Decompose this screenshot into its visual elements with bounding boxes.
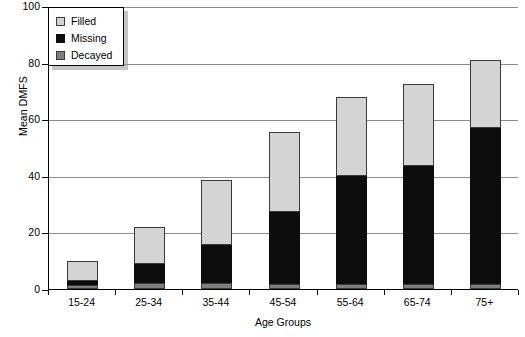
x-tick-label: 25-34	[115, 296, 182, 308]
bar-segment-missing	[67, 281, 98, 285]
gridline	[49, 120, 518, 121]
x-tick	[182, 290, 183, 295]
bar-segment-filled	[336, 97, 367, 176]
bar-segment-filled	[201, 180, 232, 245]
bar-segment-filled	[67, 261, 98, 281]
x-tick-label: 35-44	[182, 296, 249, 308]
y-tick-label: 0	[6, 283, 40, 295]
x-tick-label: 45-54	[249, 296, 316, 308]
stacked-bar-chart: Mean DMFS 020406080100 15-2425-3435-4445…	[0, 0, 525, 337]
bar-65-74	[403, 84, 434, 289]
legend-item-label: Missing	[71, 33, 107, 44]
bar-25-34	[134, 227, 165, 289]
missing-swatch-icon	[56, 34, 65, 43]
bar-segment-decayed	[403, 284, 434, 289]
bar-segment-decayed	[134, 283, 165, 289]
bar-segment-missing	[470, 128, 501, 284]
x-tick-label: 15-24	[48, 296, 115, 308]
decayed-swatch-icon	[56, 51, 65, 60]
bar-segment-filled	[134, 227, 165, 264]
x-tick-label: 55-64	[317, 296, 384, 308]
x-tick	[115, 290, 116, 295]
legend-item-label: Filled	[71, 16, 96, 27]
y-tick-label: 80	[6, 57, 40, 69]
legend-item-label: Decayed	[71, 50, 112, 61]
x-axis-title: Age Groups	[48, 316, 518, 328]
legend-item-decayed: Decayed	[56, 47, 123, 64]
x-tick	[384, 290, 385, 295]
bar-45-54	[269, 132, 300, 289]
bar-15-24	[67, 261, 98, 289]
bar-segment-missing	[269, 212, 300, 284]
y-tick-label: 60	[6, 113, 40, 125]
x-tick	[48, 290, 49, 295]
bar-35-44	[201, 180, 232, 289]
bar-55-64	[336, 97, 367, 289]
y-tick-label: 40	[6, 170, 40, 182]
y-axis-title: Mean DMFS	[17, 61, 29, 151]
chart-legend: Filled Missing Decayed	[48, 7, 124, 66]
bar-segment-decayed	[67, 285, 98, 289]
y-tick-label: 20	[6, 226, 40, 238]
x-tick	[249, 290, 250, 295]
bar-segment-decayed	[269, 284, 300, 289]
x-tick-label: 75+	[451, 296, 518, 308]
legend-item-filled: Filled	[56, 13, 123, 30]
bar-segment-filled	[269, 132, 300, 212]
x-tick	[451, 290, 452, 295]
bar-segment-decayed	[336, 284, 367, 289]
x-tick	[317, 290, 318, 295]
bar-segment-missing	[134, 264, 165, 283]
filled-swatch-icon	[56, 17, 65, 26]
bar-segment-missing	[403, 166, 434, 284]
bar-segment-decayed	[201, 283, 232, 289]
bar-75+	[470, 60, 501, 289]
y-tick-label: 100	[6, 0, 40, 12]
x-tick	[518, 290, 519, 295]
legend-item-missing: Missing	[56, 30, 123, 47]
x-tick-label: 65-74	[384, 296, 451, 308]
bar-segment-filled	[403, 84, 434, 166]
bar-segment-filled	[470, 60, 501, 128]
bar-segment-missing	[336, 176, 367, 284]
bar-segment-decayed	[470, 284, 501, 289]
bar-segment-missing	[201, 245, 232, 283]
